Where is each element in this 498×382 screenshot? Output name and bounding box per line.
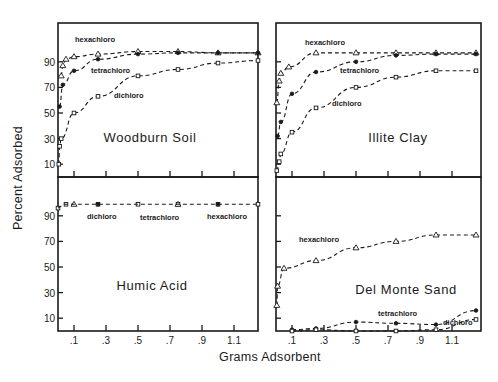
series-label-dichloro: dichloro [114,91,144,100]
series-label-dichloro: dichloro [332,99,362,108]
data-point-square [277,160,281,164]
x-tick-label: 1.1 [445,335,459,346]
data-point-triangle [58,73,64,78]
data-point-square [136,74,140,78]
x-tick-label: .9 [198,335,207,346]
y-tick-label: 30 [44,134,56,145]
data-point-triangle [63,56,69,61]
data-point-circle [314,70,318,74]
x-tick-label: .5 [134,335,143,346]
data-point-circle [279,120,283,124]
data-point-square [216,61,220,65]
series-label-tetrachloro: tetrachloro [140,213,180,222]
y-tick-label: 10 [44,159,56,170]
series-curve [277,71,476,171]
data-point-triangle [313,50,319,55]
x-tick-label: .5 [352,335,361,346]
data-point-square [72,111,76,115]
x-tick-label: .3 [102,335,111,346]
y-tick-label: 90 [44,211,56,222]
data-point-circle [96,57,100,61]
panel-humic-acid: .1.3.5.7.91.11030507090Humic Aciddichlor… [44,177,260,346]
data-point-circle [256,51,260,55]
series-curve [277,53,476,103]
x-tick-label: .1 [70,335,79,346]
data-point-triangle [274,302,280,307]
adsorption-chart: Percent Adsorbed Grams Adsorbent 1030507… [0,0,498,382]
y-tick-label: 70 [44,236,56,247]
panel-title: Humic Acid [116,278,187,293]
data-point-square [57,162,61,166]
data-point-square [275,169,279,173]
data-point-circle [216,51,220,55]
series-label-tetrachloro: tetrachloro [340,66,380,75]
data-point-circle [136,52,140,56]
series-curve [58,204,258,208]
x-tick-label: .7 [166,335,175,346]
y-tick-label: 30 [44,288,56,299]
data-point-square [279,152,283,156]
y-axis-label: Percent Adsorbed [11,126,25,230]
data-point-circle [58,105,62,109]
x-tick-label: .7 [384,335,393,346]
series-hexachloro: hexachloro [58,35,261,78]
data-point-circle [394,322,398,326]
series-dichloro: dichloro [57,59,260,166]
data-point-square [434,69,438,73]
panel-frame [276,177,481,331]
series-label-hexachloro: hexachloro [207,212,247,221]
data-point-triangle [274,100,280,105]
data-point-square [59,137,63,141]
data-point-square [58,144,62,148]
data-point-circle [354,320,358,324]
x-tick-label: .3 [320,335,329,346]
data-point-square [314,328,318,332]
series-label-tetrachloro: tetrachloro [378,309,418,318]
x-tick-label: .9 [416,335,425,346]
data-point-square [176,68,180,72]
data-point-square [474,69,478,73]
data-point-circle [276,134,280,138]
data-point-circle [61,83,65,87]
panel-del-monte-sand: .1.3.5.7.91.1Del Monte Sandhexachlorotet… [274,177,481,346]
panel-title: Woodburn Soil [104,130,197,145]
data-point-triangle [60,63,66,68]
y-tick-label: 70 [44,82,56,93]
data-point-square [314,106,318,110]
data-point-square [354,329,358,333]
panel-frame [58,177,258,331]
data-point-triangle [281,265,287,270]
panel-title: Illite Clay [368,130,427,145]
data-point-square [290,130,294,134]
data-point-circle [394,54,398,58]
data-point-triangle [276,78,282,83]
series-label-dichloro: dichloro [443,318,473,327]
data-point-square [290,329,294,333]
series-label-dichloro: dichloro [87,212,117,221]
data-point-circle [354,60,358,64]
series-curve [59,61,258,165]
y-tick-label: 10 [44,313,56,324]
data-point-square [96,95,100,99]
data-point-square [394,329,398,333]
data-point-circle [176,51,180,55]
y-tick-label: 50 [44,262,56,273]
data-point-circle [474,52,478,56]
panel-woodburn-soil: 1030507090Woodburn Soilhexachlorotetrach… [44,23,261,177]
data-point-square [256,59,260,63]
series-tetrachloro: tetrachloro [58,51,260,108]
panel-frame [58,23,258,177]
y-tick-label: 50 [44,108,56,119]
x-tick-label: 1.1 [227,335,241,346]
data-point-square [474,318,478,322]
series-tetrachloro: tetrachloro [276,52,478,138]
data-point-circle [72,69,76,73]
data-point-square [354,86,358,90]
y-tick-label: 90 [44,57,56,68]
series-label-hexachloro: hexachloro [305,38,345,47]
x-axis-label: Grams Adsorbent [219,350,321,364]
x-tick-label: .1 [288,335,297,346]
series-label-hexachloro: hexachloro [299,235,339,244]
series-label-tetrachloro: tetrachloro [91,66,131,75]
panel-illite-clay: Illite Clayhexachlorotetrachlorodichloro [274,23,481,177]
